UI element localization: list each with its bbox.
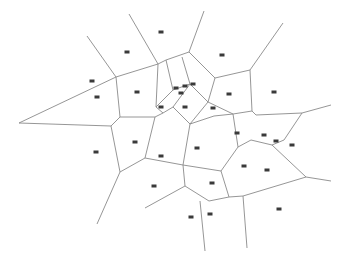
voronoi-edge [19,123,111,126]
voronoi-site-marker [183,85,188,88]
voronoi-edge [120,158,145,172]
voronoi-site-marker [189,216,194,219]
voronoi-edge [182,57,190,84]
voronoi-edge [111,126,120,172]
voronoi-edge [129,14,158,64]
voronoi-site-marker [235,132,240,135]
voronoi-site-marker [159,31,164,34]
voronoi-site-marker [135,91,140,94]
voronoi-site-marker [152,185,157,188]
voronoi-edge [221,147,238,171]
voronoi-edge [87,36,116,77]
voronoi-site-marker [174,87,179,90]
voronoi-site-marker [94,151,99,154]
voronoi-site-marker [179,92,184,95]
voronoi-edge [145,117,155,158]
voronoi-site-marker [210,182,215,185]
voronoi-edge [200,201,205,251]
voronoi-edge [189,11,204,52]
voronoi-site-marker [220,54,225,57]
voronoi-site-marker [191,83,196,86]
voronoi-edge [183,124,190,165]
voronoi-site-marker [159,106,164,109]
voronoi-edge [19,77,116,123]
voronoi-site-marker [125,51,130,54]
voronoi-edge [156,90,173,107]
voronoi-site-marker [90,80,95,83]
voronoi-edge [97,172,120,224]
voronoi-site-marker [211,107,216,110]
voronoi-edge [233,114,238,147]
voronoi-edge [145,158,183,165]
voronoi-site-marker [262,134,267,137]
voronoi-site-marker [242,165,247,168]
voronoi-site-marker [183,106,188,109]
voronoi-edge [221,171,229,197]
voronoi-edge [158,52,189,64]
voronoi-edge [116,77,120,117]
voronoi-edge [183,165,185,186]
voronoi-edges [19,11,331,251]
voronoi-edge [215,70,250,78]
voronoi-edge [185,186,229,201]
voronoi-edge [116,64,158,77]
voronoi-site-marker [290,144,295,147]
voronoi-edge [190,84,208,102]
voronoi-edge [284,113,302,140]
voronoi-site-marker [208,213,213,216]
voronoi-site-marker [95,96,100,99]
voronoi-edge [208,78,215,102]
voronoi-edge [111,117,120,126]
voronoi-diagram [0,0,347,265]
voronoi-site-marker [265,169,270,172]
voronoi-site-marker [133,141,138,144]
voronoi-edge [166,60,173,90]
voronoi-edge [252,105,331,115]
voronoi-edge [229,177,306,197]
voronoi-edge [243,196,247,248]
voronoi-edge [173,107,190,124]
voronoi-site-marker [274,140,279,143]
voronoi-edge [250,23,283,70]
voronoi-edge [183,165,221,171]
voronoi-site-marker [277,208,282,211]
voronoi-edge [250,70,252,111]
voronoi-edge [272,145,331,181]
voronoi-edge [238,140,272,147]
voronoi-site-marker [159,155,164,158]
voronoi-edge [156,64,158,107]
voronoi-site-marker [272,91,277,94]
voronoi-edge [145,186,185,208]
voronoi-edge [189,52,215,78]
voronoi-site-marker [195,147,200,150]
voronoi-site-marker [227,93,232,96]
